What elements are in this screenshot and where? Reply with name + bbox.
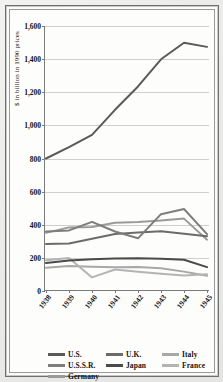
x-tick-mark: [69, 290, 70, 293]
y-tick-label: 800: [30, 154, 41, 163]
plot-area: 02004006008001,0001,2001,4001,600 193819…: [44, 26, 209, 291]
legend-label: Italy: [182, 350, 198, 359]
legend-swatch: [106, 353, 123, 356]
y-tick-label: 1,400: [24, 55, 41, 64]
legend-item-ussr: U.S.S.R.: [48, 361, 106, 370]
legend-label: Japan: [126, 361, 146, 370]
legend-item-us: U.S.: [48, 350, 106, 359]
x-tick-mark: [92, 290, 93, 293]
legend-item-japan: Japan: [106, 361, 162, 370]
legend-swatch: [162, 353, 179, 356]
x-tick-mark: [207, 290, 208, 293]
legend-label: U.K.: [126, 350, 141, 359]
page-border-inner: $ in billion in 1990 prices 020040060080…: [9, 9, 215, 373]
y-tick-mark: [42, 291, 45, 292]
x-tick-mark: [184, 290, 185, 293]
legend-item-uk: U.K.: [106, 350, 162, 359]
legend-label: U.S.: [68, 350, 82, 359]
x-tick-label: 1944: [175, 293, 191, 310]
x-tick-label: 1938: [37, 293, 53, 310]
x-tick-mark: [46, 290, 47, 293]
y-tick-label: 0: [37, 287, 41, 296]
x-tick-mark: [138, 290, 139, 293]
x-tick-label: 1939: [60, 293, 76, 310]
y-tick-label: 400: [30, 220, 41, 229]
x-tick-label: 1942: [129, 293, 145, 310]
series-line-uk: [46, 231, 207, 244]
x-tick-mark: [161, 290, 162, 293]
x-tick-label: 1943: [152, 293, 168, 310]
y-tick-label: 1,600: [24, 22, 41, 31]
y-axis-title: $ in billion in 1990 prices: [13, 0, 21, 106]
legend-item-germany: Germany: [48, 372, 106, 381]
legend-swatch: [48, 353, 65, 356]
scanned-page: $ in billion in 1990 prices 020040060080…: [0, 0, 223, 382]
y-tick-label: 1,000: [24, 121, 41, 130]
legend-swatch: [48, 364, 65, 367]
series-lines: [45, 26, 209, 290]
y-tick-label: 600: [30, 187, 41, 196]
legend-label: France: [182, 361, 205, 370]
x-tick-label: 1941: [106, 293, 122, 310]
series-svg: [45, 26, 210, 291]
chart-legend: U.S.U.K.ItalyU.S.S.R.JapanFranceGermany: [48, 350, 223, 381]
legend-item-france: France: [162, 361, 218, 370]
page-border-outer: $ in billion in 1990 prices 020040060080…: [5, 5, 219, 377]
y-tick-label: 200: [30, 253, 41, 262]
x-tick-label: 1945: [198, 293, 214, 310]
series-line-us: [46, 43, 207, 159]
line-chart: $ in billion in 1990 prices 020040060080…: [10, 10, 214, 372]
y-tick-label: 1,200: [24, 88, 41, 97]
legend-swatch: [48, 375, 65, 378]
legend-label: U.S.S.R.: [68, 361, 95, 370]
legend-item-italy: Italy: [162, 350, 218, 359]
x-tick-label: 1940: [83, 293, 99, 310]
legend-label: Germany: [68, 372, 99, 381]
x-tick-mark: [115, 290, 116, 293]
legend-swatch: [106, 364, 123, 367]
legend-swatch: [162, 364, 179, 367]
